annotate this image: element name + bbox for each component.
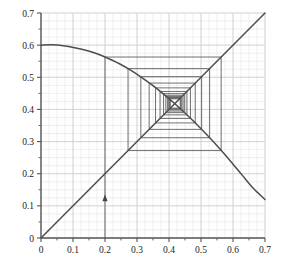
y-tick-label: 0.2 xyxy=(22,169,34,179)
cobweb-plot-figure: 00.10.20.30.40.50.60.700.10.20.30.40.50.… xyxy=(0,0,282,271)
x-tick-label: 0.3 xyxy=(131,245,143,255)
x-tick-label: 0 xyxy=(39,245,44,255)
x-tick-label: 0.6 xyxy=(227,245,239,255)
y-tick-label: 0 xyxy=(29,234,34,244)
x-tick-label: 0.7 xyxy=(259,245,271,255)
y-tick-label: 0.6 xyxy=(22,41,34,51)
x-tick-label: 0.2 xyxy=(99,245,111,255)
y-tick-label: 0.5 xyxy=(22,73,34,83)
x-tick-label: 0.4 xyxy=(163,245,175,255)
y-tick-label: 0.4 xyxy=(22,105,34,115)
y-tick-label: 0.3 xyxy=(22,137,34,147)
x-tick-label: 0.1 xyxy=(67,245,79,255)
chart-canvas: 00.10.20.30.40.50.60.700.10.20.30.40.50.… xyxy=(0,0,282,271)
y-tick-label: 0.1 xyxy=(22,201,34,211)
x-tick-label: 0.5 xyxy=(195,245,207,255)
y-tick-label: 0.7 xyxy=(22,9,34,19)
